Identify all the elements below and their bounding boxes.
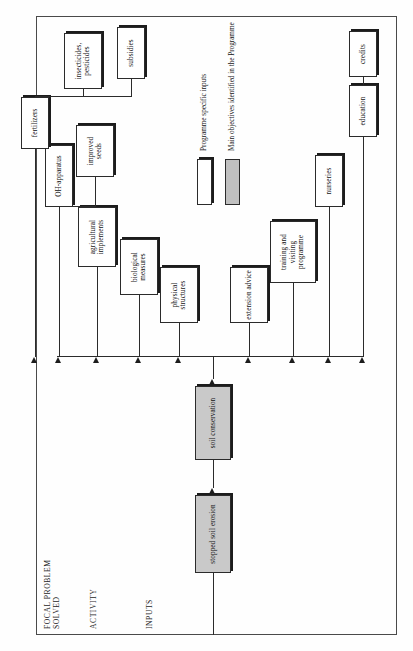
arrow-oh-apparatus: [55, 357, 61, 363]
connector-bus-lower: [213, 356, 363, 357]
arrow-biological-measures: [135, 357, 141, 363]
node-subsidies: subsidies: [117, 27, 145, 79]
node-fertilizers: fertilizers: [21, 97, 49, 149]
node-oh-apparatus: OH-apparatus: [45, 145, 73, 207]
connector-improved-seeds-drop: [73, 206, 95, 207]
connector-improved-seeds: [95, 177, 96, 207]
node-education: education: [349, 85, 377, 137]
node-improved-seeds: improved seeds: [76, 125, 114, 177]
arrow-activity-to-goal: [209, 488, 215, 494]
connector-pesticides-drop: [35, 96, 83, 97]
connector-subsidies-drop: [83, 96, 131, 97]
arrow-physical-structures: [175, 357, 181, 363]
node-agricultural-implements: agricultural implements: [78, 207, 116, 267]
arrow-education: [359, 357, 365, 363]
legend-swatch-programme-inputs: [197, 159, 212, 205]
arrow-fertilizers: [31, 357, 37, 363]
arrow-extension-advice: [245, 357, 251, 363]
document-page: FOCAL PROBLEM SOLVED ACTIVITY INPUTS sto…: [0, 0, 413, 651]
connector-extension-advice: [249, 323, 250, 357]
connector-goal-inbound: [213, 573, 214, 635]
node-credits: credits: [349, 31, 377, 77]
node-nurseries: nurseries: [315, 155, 343, 207]
objective-tree-diagram: FOCAL PROBLEM SOLVED ACTIVITY INPUTS sto…: [27, 15, 387, 635]
node-training-visiting-programme: training and visiting programme: [270, 221, 316, 283]
connector-physical-structures: [179, 323, 180, 357]
connector-fertilizers: [35, 149, 36, 357]
band-label-inputs: INPUTS: [145, 599, 154, 629]
node-extension-advice: extension advice: [230, 267, 268, 323]
connector-nurseries: [329, 207, 330, 357]
node-stopped-soil-erosion: stopped soil erosion: [195, 495, 231, 573]
node-physical-structures: physical structures: [160, 267, 198, 323]
band-label-focal-problem-solved: FOCAL PROBLEM SOLVED: [43, 559, 62, 629]
connector-biological-measures: [139, 295, 140, 357]
legend-swatch-main-objectives: [225, 159, 240, 205]
legend: Programme specific inputs Main objective…: [187, 25, 267, 205]
connector-inputs-bus-stub: [213, 357, 214, 379]
connector-training-programme: [293, 283, 294, 357]
node-insecticides-pesticides: insecticides, pesticides: [64, 33, 102, 89]
arrow-inputs-to-activity: [209, 379, 215, 385]
connector-education: [363, 137, 364, 357]
band-label-activity: ACTIVITY: [89, 589, 98, 629]
arrow-training-programme: [289, 357, 295, 363]
connector-activity-to-goal: [213, 460, 214, 488]
node-soil-conservation: soil conservation: [195, 386, 231, 460]
legend-label-programme-inputs: Programme specific inputs: [200, 74, 208, 151]
page-border-right: [396, 16, 397, 634]
arrow-agricultural-implements: [93, 357, 99, 363]
legend-label-main-objectives: Main objectives identified in the Progra…: [228, 22, 236, 151]
connector-agricultural-implements: [97, 267, 98, 357]
arrow-nurseries: [325, 357, 331, 363]
connector-oh-apparatus: [59, 207, 60, 357]
node-biological-measures: biological measures: [120, 239, 158, 295]
